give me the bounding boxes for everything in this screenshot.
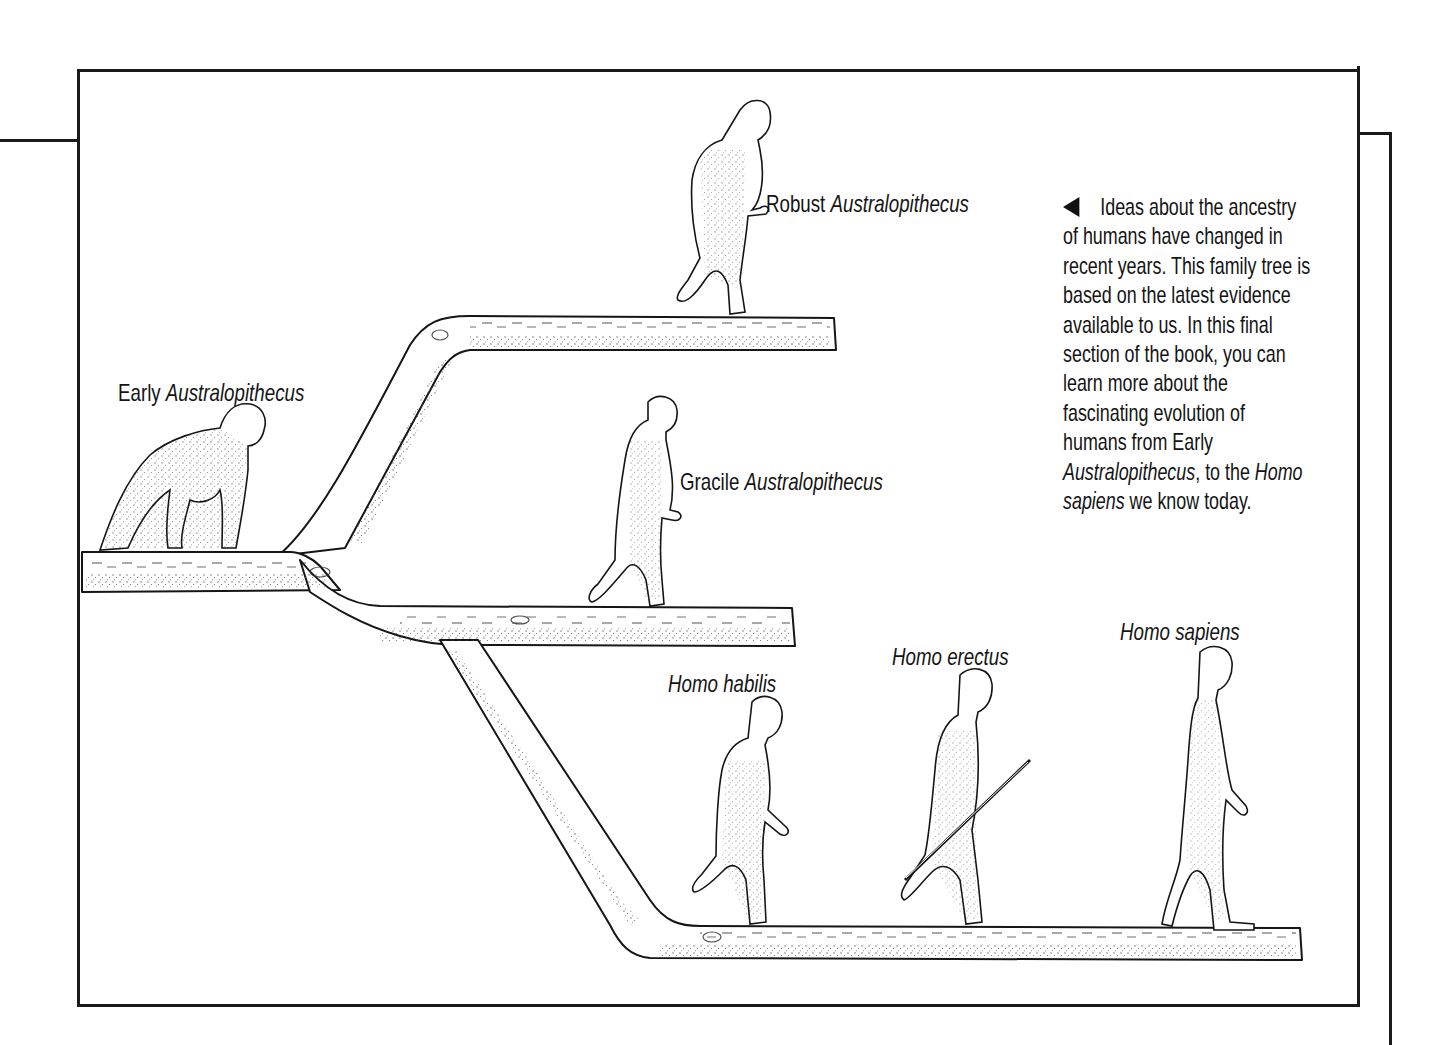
figure-robust-australopithecus xyxy=(677,100,770,314)
label-early-australopithecus: Early Australopithecus xyxy=(118,381,304,405)
label-homo-sapiens: Homo sapiens xyxy=(1120,620,1240,644)
label-text: Robust xyxy=(766,190,831,217)
caption-line: section of the book, you can xyxy=(1063,339,1331,368)
label-gracile-australopithecus: Gracile Australopithecus xyxy=(680,470,883,494)
label-robust-australopithecus: Robust Australopithecus xyxy=(766,192,969,216)
figure-early-australopithecus xyxy=(100,404,265,550)
caption-line: based on the latest evidence xyxy=(1063,280,1331,309)
family-tree-illustration xyxy=(0,0,1430,1045)
figure-homo-sapiens xyxy=(1162,647,1254,930)
caption-line: of humans have changed in xyxy=(1063,221,1331,250)
figure-caption: Ideas about the ancestry of humans have … xyxy=(1063,192,1331,515)
caption-text: , to the xyxy=(1195,458,1255,485)
label-text: Gracile xyxy=(680,468,744,495)
figure-gracile-australopithecus xyxy=(589,396,681,606)
figure-homo-erectus xyxy=(902,669,1030,924)
caption-italic: Australopithecus xyxy=(1063,458,1195,485)
caption-line: humans from Early xyxy=(1063,427,1331,456)
caption-line: recent years. This family tree is xyxy=(1063,251,1331,280)
caption-line: sapiens we know today. xyxy=(1063,486,1331,515)
label-genus: Australopithecus xyxy=(831,190,969,217)
caption-text: we know today. xyxy=(1125,487,1252,514)
caption-line: Australopithecus, to the Homo xyxy=(1063,457,1331,486)
caption-italic: Homo xyxy=(1255,458,1303,485)
caption-italic: sapiens xyxy=(1063,487,1125,514)
label-species: Homo habilis xyxy=(668,670,776,697)
label-homo-erectus: Homo erectus xyxy=(892,645,1009,669)
label-text: Early xyxy=(118,379,166,406)
caption-line: Ideas about the ancestry xyxy=(1063,192,1331,221)
label-genus: Australopithecus xyxy=(744,468,882,495)
label-homo-habilis: Homo habilis xyxy=(668,672,776,696)
left-pointer-icon xyxy=(1063,197,1079,217)
figure-homo-habilis xyxy=(693,697,788,924)
caption-line: fascinating evolution of xyxy=(1063,398,1331,427)
label-species: Homo erectus xyxy=(892,643,1009,670)
caption-line: learn more about the xyxy=(1063,368,1331,397)
caption-line: available to us. In this final xyxy=(1063,310,1331,339)
caption-text: Ideas about the ancestry xyxy=(1100,193,1296,220)
label-species: Homo sapiens xyxy=(1120,618,1240,645)
label-genus: Australopithecus xyxy=(166,379,304,406)
